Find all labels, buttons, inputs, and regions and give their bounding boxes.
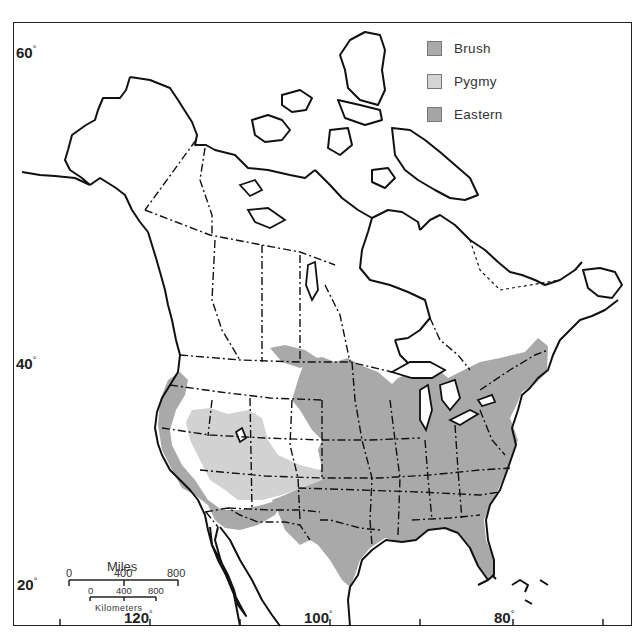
pygmy-range [186, 408, 322, 500]
legend-label-eastern: Eastern [454, 107, 503, 122]
arctic-island-ellesmere [340, 32, 385, 105]
great-slave-lake [248, 208, 285, 228]
swatch-eastern [427, 107, 442, 122]
quebec-labrador-border [470, 240, 560, 290]
great-bear-lake [240, 180, 262, 196]
alaska-canada-border [145, 140, 196, 210]
latitude-label-60: 60° [16, 44, 36, 61]
bc-alberta-border [212, 240, 240, 360]
baffin-island [392, 128, 478, 200]
latitude-label-40: 40° [16, 355, 36, 372]
arctic-island-banks [282, 90, 312, 112]
scale-km-title: Kilometers [95, 603, 143, 613]
legend-item-brush: Brush [427, 32, 503, 65]
range-map [0, 0, 642, 637]
arctic-island-victoria [252, 115, 290, 142]
cuba-coast [512, 580, 548, 604]
scale-km-400: 400 [116, 585, 132, 596]
lake-superior [392, 362, 445, 378]
ontario-quebec-border [430, 318, 470, 370]
arctic-island-somerset [328, 128, 352, 155]
scale-miles-0: 0 [66, 567, 72, 579]
scale-miles-400: 400 [114, 567, 132, 579]
legend-label-brush: Brush [454, 41, 491, 56]
longitude-label-80: 80° [494, 609, 514, 626]
scale-km-0: 0 [88, 585, 93, 596]
quebec-north-coast [372, 210, 420, 230]
labrador-coast [420, 215, 582, 285]
legend-item-pygmy: Pygmy [427, 65, 503, 98]
swatch-brush [427, 41, 442, 56]
hudson-bay-coast [315, 170, 430, 370]
legend-label-pygmy: Pygmy [454, 74, 497, 89]
southampton-island [372, 168, 395, 188]
territories-south-border [145, 210, 335, 265]
lake-winnipeg [306, 262, 318, 300]
alaska-coast [22, 77, 315, 232]
manitoba-ontario-border [325, 285, 350, 362]
scale-km-800: 800 [148, 585, 164, 596]
baja-coast [210, 527, 246, 616]
legend-item-eastern: Eastern [427, 98, 503, 131]
yukon-nwt-border [200, 148, 212, 235]
legend: Brush Pygmy Eastern [427, 32, 503, 131]
scale-miles-800: 800 [167, 567, 185, 579]
latitude-label-20: 20° [17, 576, 37, 593]
newfoundland-coast [583, 268, 622, 298]
longitude-label-100: 100° [304, 609, 333, 626]
swatch-pygmy [427, 74, 442, 89]
